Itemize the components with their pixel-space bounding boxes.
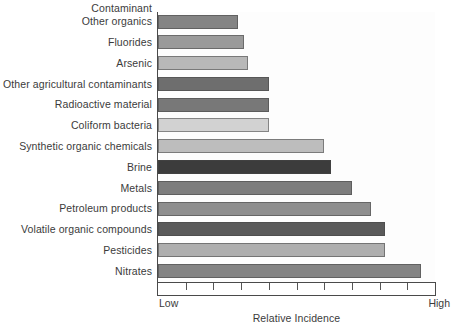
x-axis-tick — [380, 283, 381, 290]
bar-row — [158, 12, 435, 31]
category-label: Coliform bacteria — [0, 119, 152, 131]
bar — [158, 181, 352, 195]
category-label: Arsenic — [0, 57, 152, 69]
bar — [158, 35, 244, 49]
x-axis-tick — [186, 283, 187, 290]
category-label: Metals — [0, 182, 152, 194]
bar-row — [158, 199, 435, 218]
category-label: Brine — [0, 161, 152, 173]
bar-row — [158, 33, 435, 52]
x-axis-tick — [324, 283, 325, 290]
bar — [158, 160, 331, 174]
x-axis-tick — [407, 283, 408, 290]
bar-row — [158, 220, 435, 239]
bar — [158, 264, 421, 278]
category-label: Other agricultural contaminants — [0, 78, 152, 90]
category-label: Nitrates — [0, 265, 152, 277]
bar — [158, 222, 385, 236]
category-label: Fluorides — [0, 36, 152, 48]
category-label: Petroleum products — [0, 202, 152, 214]
bar-row — [158, 95, 435, 114]
x-axis-tick — [297, 283, 298, 290]
bar-row — [158, 116, 435, 135]
bar-row — [158, 240, 435, 259]
bar-row — [158, 178, 435, 197]
x-axis-tick — [269, 283, 270, 290]
bar — [158, 77, 269, 91]
bar — [158, 15, 238, 29]
x-axis-tick — [352, 283, 353, 290]
x-axis-low-label: Low — [159, 297, 178, 309]
bar-row — [158, 74, 435, 93]
y-axis-title: Contaminant — [0, 2, 152, 14]
bar — [158, 118, 269, 132]
bar-chart: Contaminant Other organicsFluoridesArsen… — [0, 0, 453, 327]
x-axis-tick — [213, 283, 214, 290]
bars-layer — [158, 12, 435, 282]
bar-row — [158, 157, 435, 176]
category-label: Volatile organic compounds — [0, 223, 152, 235]
bar-row — [158, 54, 435, 73]
bar — [158, 98, 269, 112]
category-label: Radioactive material — [0, 98, 152, 110]
category-label: Pesticides — [0, 244, 152, 256]
x-axis-high-label: High — [410, 297, 450, 309]
bar — [158, 202, 371, 216]
bar-row — [158, 137, 435, 156]
bar — [158, 56, 248, 70]
category-label: Other organics — [0, 15, 152, 27]
bar-row — [158, 261, 435, 280]
x-axis-tick — [241, 283, 242, 290]
bar — [158, 243, 385, 257]
category-label: Synthetic organic chemicals — [0, 140, 152, 152]
x-axis-title: Relative Incidence — [158, 312, 435, 324]
bar — [158, 139, 324, 153]
